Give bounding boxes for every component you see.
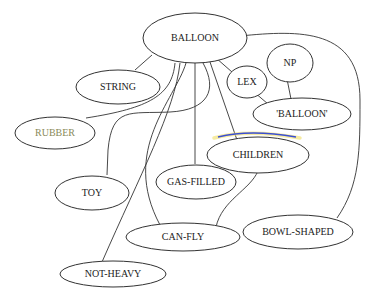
node-rubber[interactable]: RUBBER	[15, 117, 95, 149]
node-bowl-shaped[interactable]: BOWL-SHAPED	[243, 215, 353, 249]
node-label: BALLOON	[171, 32, 219, 43]
node-label: LEX	[237, 76, 257, 87]
concept-diagram: BALLOON STRING RUBBER LEX NP 'BALLOON' C…	[0, 0, 378, 297]
node-toy[interactable]: TOY	[55, 176, 129, 210]
node-not-heavy[interactable]: NOT-HEAVY	[60, 261, 166, 287]
edge-balloon-string	[135, 55, 152, 70]
node-can-fly[interactable]: CAN-FLY	[126, 223, 240, 251]
node-label: 'BALLOON'	[276, 108, 328, 119]
node-string[interactable]: STRING	[76, 70, 160, 104]
node-label: CAN-FLY	[162, 231, 204, 242]
node-np[interactable]: NP	[267, 44, 313, 82]
node-balloon-quoted[interactable]: 'BALLOON'	[253, 98, 351, 130]
node-gas-filled[interactable]: GAS-FILLED	[156, 165, 236, 199]
node-label: STRING	[100, 81, 136, 92]
node-label: GAS-FILLED	[167, 176, 225, 187]
node-label: TOY	[82, 187, 102, 198]
node-label: NOT-HEAVY	[85, 268, 142, 279]
node-children[interactable]: CHILDREN	[207, 133, 309, 173]
node-label: NP	[284, 57, 297, 68]
node-label: BOWL-SHAPED	[262, 226, 334, 237]
node-label: CHILDREN	[233, 149, 284, 160]
node-label: RUBBER	[35, 127, 75, 138]
node-lex[interactable]: LEX	[227, 66, 267, 98]
node-balloon[interactable]: BALLOON	[143, 13, 247, 63]
